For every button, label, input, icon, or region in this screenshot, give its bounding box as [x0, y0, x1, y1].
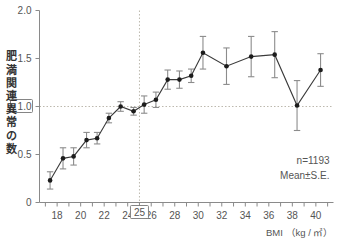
y-axis-title-char-0: 肥 — [6, 50, 17, 63]
x-reference-25-label: 25 — [134, 207, 146, 218]
x-axis-title: BMI （kg / ㎡） — [266, 227, 333, 238]
data-point-17 — [295, 103, 300, 108]
bmi-abnormalities-chart: 00.51.01.52.018202224262830323436384025B… — [0, 0, 339, 240]
data-point-13 — [201, 50, 206, 55]
x-tick-label-0: 18 — [52, 210, 64, 221]
data-point-6 — [118, 104, 123, 109]
y-axis-title-char-4: 異 — [6, 103, 17, 116]
data-point-4 — [95, 136, 100, 141]
x-tick-label-11: 40 — [310, 210, 322, 221]
y-tick-label-3: 1.5 — [18, 53, 32, 64]
data-point-1 — [61, 156, 66, 161]
y-axis-title-char-2: 関 — [6, 77, 17, 90]
x-tick-label-7: 32 — [216, 210, 228, 221]
data-point-8 — [142, 102, 147, 107]
x-tick-label-5: 28 — [169, 210, 181, 221]
data-point-3 — [84, 138, 89, 143]
y-tick-label-4: 2.0 — [18, 5, 32, 16]
data-point-14 — [224, 64, 229, 69]
chart-canvas: 00.51.01.52.018202224262830323436384025B… — [0, 0, 339, 240]
data-point-16 — [272, 52, 277, 57]
x-tick-label-9: 36 — [263, 210, 275, 221]
data-point-18 — [318, 68, 323, 73]
y-axis-title-char-7: 数 — [6, 142, 18, 156]
x-tick-label-1: 20 — [75, 210, 87, 221]
y-axis-title-char-3: 連 — [6, 89, 18, 103]
data-point-10 — [165, 77, 170, 82]
x-tick-label-6: 30 — [193, 210, 205, 221]
y-tick-label-0: 0 — [26, 197, 32, 208]
annotation-1: Mean±S.E. — [280, 170, 329, 181]
x-tick-label-2: 22 — [99, 210, 111, 221]
data-point-0 — [48, 178, 53, 183]
data-point-9 — [154, 97, 159, 102]
data-point-12 — [189, 73, 194, 78]
x-tick-label-8: 34 — [240, 210, 252, 221]
y-axis-title-char-6: の — [6, 130, 17, 143]
data-point-15 — [249, 54, 254, 59]
data-point-11 — [177, 77, 182, 82]
y-axis-title-char-5: 常 — [6, 115, 17, 129]
y-axis-title-char-1: 満 — [6, 63, 17, 77]
annotation-0: n=1193 — [297, 155, 330, 166]
data-point-2 — [71, 154, 76, 159]
data-point-7 — [131, 109, 136, 114]
x-tick-label-10: 38 — [287, 210, 299, 221]
data-point-5 — [107, 116, 112, 121]
y-tick-label-1: 0.5 — [18, 149, 32, 160]
y-tick-label-2: 1.0 — [18, 101, 32, 112]
series-line-肥満関連異常の数 — [50, 53, 320, 181]
